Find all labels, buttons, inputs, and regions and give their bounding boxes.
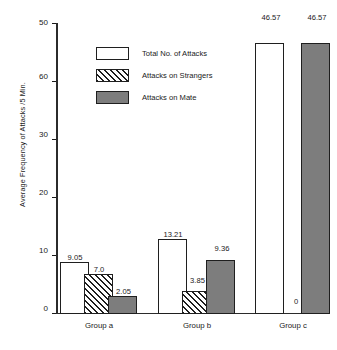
bar-c-mate — [301, 43, 330, 314]
y-tick-label-30: 30 — [22, 131, 48, 139]
x-axis-label-group-c: Group c — [256, 322, 330, 330]
bar-value-a-total: 9.05 — [58, 254, 92, 262]
bar-value-b-total: 13.21 — [155, 231, 191, 239]
legend-swatch-mate-icon — [96, 91, 129, 104]
bar-b-mate — [206, 260, 235, 314]
bar-chart: Average Frequency of Attacks /5 Min. 50 … — [0, 0, 337, 350]
legend-label-strangers: Attacks on Strangers — [142, 69, 213, 82]
y-axis-line — [56, 23, 58, 314]
y-tick-label-0: 0 — [22, 305, 48, 313]
bar-a-mate — [108, 296, 137, 314]
y-tick-label-50: 50 — [22, 19, 48, 27]
bar-value-a-mate: 2.05 — [107, 288, 140, 296]
legend-label-mate: Attacks on Mate — [142, 91, 196, 104]
y-tick-label-20: 20 — [22, 189, 48, 197]
bar-value-b-mate: 9.36 — [205, 245, 239, 253]
bar-value-c-total: 46.57 — [252, 14, 290, 22]
y-tick-label-40: 60 — [22, 73, 48, 81]
y-tick-label-10: 10 — [22, 247, 48, 255]
x-axis-label-group-b: Group b — [160, 322, 234, 330]
legend-label-total: Total No. of Attacks — [142, 47, 207, 60]
bar-c-total — [255, 43, 284, 314]
bar-value-a-strangers: 7.0 — [83, 266, 115, 274]
x-axis-label-group-a: Group a — [62, 322, 136, 330]
legend-swatch-total-icon — [96, 47, 129, 60]
legend-swatch-strangers-icon — [96, 69, 129, 82]
bar-value-c-mate: 46.57 — [298, 14, 336, 22]
